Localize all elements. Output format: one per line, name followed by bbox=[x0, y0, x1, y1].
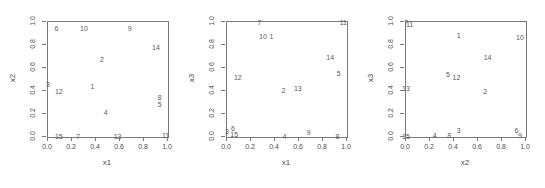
x-axis-tick bbox=[453, 137, 454, 141]
x-axis-tick-label: 0.0 bbox=[42, 143, 52, 151]
x-axis-tick-label: 0.8 bbox=[138, 143, 148, 151]
x-axis-tick bbox=[525, 137, 526, 141]
y-axis-title: x3 bbox=[187, 74, 196, 82]
x-axis-title: x2 bbox=[461, 158, 469, 167]
y-axis-tick-label: 0.6 bbox=[208, 62, 216, 72]
x-axis-tick-label: 0.6 bbox=[114, 143, 124, 151]
y-axis-tick-label: 0.6 bbox=[387, 62, 395, 72]
y-axis-tick bbox=[42, 136, 46, 137]
data-point-label: 12 bbox=[452, 74, 460, 81]
y-axis-tick bbox=[221, 136, 225, 137]
x-axis-tick bbox=[346, 137, 347, 141]
y-axis-tick bbox=[221, 113, 225, 114]
x-axis-tick-label: 0.0 bbox=[221, 143, 231, 151]
x-axis-tick bbox=[167, 137, 168, 141]
x-axis-tick bbox=[429, 137, 430, 141]
y-axis-tick-label: 0.2 bbox=[208, 108, 216, 118]
data-point-label: 10 bbox=[259, 32, 267, 39]
data-point-label: 6 bbox=[54, 24, 58, 31]
scatter-panel-2: 1234567891011121314150.00.20.40.60.81.00… bbox=[179, 0, 360, 188]
x-axis-tick bbox=[226, 137, 227, 141]
y-axis-tick-label: 0.2 bbox=[387, 108, 395, 118]
x-axis-tick bbox=[274, 137, 275, 141]
data-point-label: 13 bbox=[294, 84, 302, 91]
x-axis-tick-label: 0.0 bbox=[400, 143, 410, 151]
y-axis-tick bbox=[42, 44, 46, 45]
x-axis-tick-label: 1.0 bbox=[162, 143, 172, 151]
plot-frame: 123456789101112131415 bbox=[47, 21, 169, 138]
x-axis-tick bbox=[95, 137, 96, 141]
y-axis-title: x2 bbox=[8, 74, 17, 82]
data-point-label: 3 bbox=[225, 128, 229, 135]
y-axis-tick-label: 0.0 bbox=[29, 131, 37, 141]
y-axis-tick bbox=[42, 67, 46, 68]
plot-frame: 123456789101112131415 bbox=[226, 21, 348, 138]
data-point-label: 14 bbox=[326, 53, 334, 60]
y-axis-tick-label: 1.0 bbox=[387, 16, 395, 26]
x-axis-tick-label: 0.4 bbox=[90, 143, 100, 151]
data-point-label: 2 bbox=[483, 88, 487, 95]
plot-area: 123456789101112131415 bbox=[48, 22, 168, 137]
data-point-label: 11 bbox=[340, 19, 347, 26]
y-axis-tick-label: 0.8 bbox=[29, 39, 37, 49]
data-point-label: 10 bbox=[80, 24, 88, 31]
x-axis-tick-label: 0.4 bbox=[448, 143, 458, 151]
data-point-label: 2 bbox=[281, 86, 285, 93]
x-axis-tick-label: 0.4 bbox=[269, 143, 279, 151]
x-axis-tick bbox=[71, 137, 72, 141]
y-axis-tick-label: 0.8 bbox=[387, 39, 395, 49]
y-axis-tick-label: 1.0 bbox=[208, 16, 216, 26]
plot-frame: 123456789101112131415 bbox=[405, 21, 527, 138]
x-axis-tick bbox=[143, 137, 144, 141]
data-point-label: 7 bbox=[76, 132, 80, 139]
x-axis-tick-label: 0.8 bbox=[317, 143, 327, 151]
y-axis-tick bbox=[42, 90, 46, 91]
y-axis-tick-label: 0.2 bbox=[29, 108, 37, 118]
data-point-label: 12 bbox=[234, 74, 242, 81]
y-axis-tick bbox=[221, 21, 225, 22]
x-axis-title: x1 bbox=[282, 158, 290, 167]
x-axis-tick bbox=[250, 137, 251, 141]
data-point-label: 9 bbox=[518, 131, 522, 138]
data-point-label: 3 bbox=[46, 81, 50, 88]
y-axis-tick-label: 0.0 bbox=[208, 131, 216, 141]
data-point-label: 2 bbox=[100, 55, 104, 62]
data-point-label: 8 bbox=[158, 93, 162, 100]
data-point-label: 3 bbox=[457, 127, 461, 134]
x-axis-tick-label: 0.8 bbox=[496, 143, 506, 151]
y-axis-tick bbox=[400, 113, 404, 114]
data-point-label: 5 bbox=[158, 100, 162, 107]
plot-area: 123456789101112131415 bbox=[227, 22, 347, 137]
data-point-label: 5 bbox=[446, 70, 450, 77]
data-point-label: 11 bbox=[162, 131, 169, 138]
x-axis-tick-label: 1.0 bbox=[520, 143, 530, 151]
data-point-label: 8 bbox=[335, 132, 339, 139]
x-axis-tick-label: 0.2 bbox=[245, 143, 255, 151]
data-point-label: 15 bbox=[230, 130, 238, 137]
data-point-label: 13 bbox=[114, 132, 122, 139]
y-axis-tick bbox=[400, 136, 404, 137]
scatter-panel-3: 1234567891011121314150.00.20.40.60.81.00… bbox=[358, 0, 539, 188]
y-axis-tick bbox=[221, 90, 225, 91]
y-axis-tick-label: 0.4 bbox=[208, 85, 216, 95]
x-axis-tick bbox=[322, 137, 323, 141]
data-point-label: 15 bbox=[55, 132, 63, 139]
scatterplot-matrix-figure: 1234567891011121314150.00.20.40.60.81.00… bbox=[0, 0, 545, 188]
scatter-panel-1: 1234567891011121314150.00.20.40.60.81.00… bbox=[0, 0, 181, 188]
data-point-label: 4 bbox=[283, 132, 287, 139]
data-point-label: 1 bbox=[269, 32, 273, 39]
data-point-label: 11 bbox=[406, 21, 413, 28]
y-axis-tick bbox=[400, 44, 404, 45]
data-point-label: 14 bbox=[484, 53, 492, 60]
data-point-label: 7 bbox=[257, 19, 261, 26]
y-axis-tick-label: 0.4 bbox=[387, 85, 395, 95]
x-axis-tick-label: 0.2 bbox=[424, 143, 434, 151]
x-axis-tick-label: 1.0 bbox=[341, 143, 351, 151]
x-axis-tick bbox=[47, 137, 48, 141]
x-axis-tick bbox=[298, 137, 299, 141]
x-axis-tick-label: 0.6 bbox=[472, 143, 482, 151]
data-point-label: 5 bbox=[337, 69, 341, 76]
x-axis-tick bbox=[477, 137, 478, 141]
x-axis-title: x1 bbox=[103, 158, 111, 167]
y-axis-tick-label: 0.0 bbox=[387, 131, 395, 141]
